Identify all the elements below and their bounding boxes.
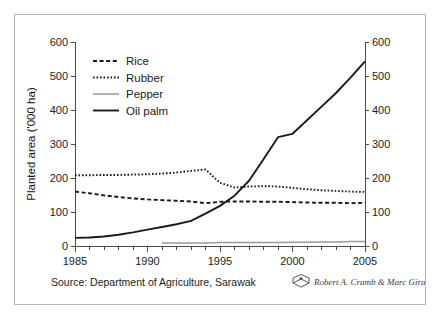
- series-line-rice: [75, 192, 365, 204]
- source-note: Source: Department of Agriculture, Saraw…: [51, 276, 257, 288]
- book-logo-icon: [293, 275, 309, 288]
- legend-label-pepper: Pepper: [126, 88, 163, 100]
- x-tick-label: 1990: [135, 255, 159, 267]
- x-tick-label: 2005: [353, 255, 377, 267]
- line-chart: 0100200300400500600010020030040050060019…: [15, 15, 425, 304]
- chart-figure-frame: 0100200300400500600010020030040050060019…: [14, 14, 426, 305]
- x-tick-label: 1985: [63, 255, 87, 267]
- left-y-tick-label: 300: [50, 138, 68, 150]
- y-axis-title: Planted area ('000 ha): [25, 87, 37, 201]
- left-y-tick-label: 200: [50, 172, 68, 184]
- series-line-oil-palm: [75, 61, 365, 237]
- left-y-tick-label: 500: [50, 70, 68, 82]
- right-y-tick-label: 500: [372, 70, 390, 82]
- right-y-tick-label: 600: [372, 36, 390, 48]
- right-y-tick-label: 300: [372, 138, 390, 150]
- right-y-tick-label: 100: [372, 206, 390, 218]
- legend-label-rubber: Rubber: [126, 72, 164, 84]
- credit-label: Robert A. Cramb & Marc Girard: [313, 277, 425, 287]
- left-y-tick-label: 100: [50, 206, 68, 218]
- left-y-tick-label: 400: [50, 104, 68, 116]
- series-line-rubber: [75, 170, 365, 192]
- legend-label-rice: Rice: [126, 55, 149, 67]
- x-tick-label: 1995: [208, 255, 232, 267]
- left-y-tick-label: 0: [62, 240, 68, 252]
- x-tick-label: 2000: [280, 255, 304, 267]
- left-y-tick-label: 600: [50, 36, 68, 48]
- right-y-tick-label: 400: [372, 104, 390, 116]
- series-line-pepper: [162, 242, 365, 243]
- legend-label-oil-palm: Oil palm: [126, 105, 168, 117]
- right-y-tick-label: 0: [372, 240, 378, 252]
- right-y-tick-label: 200: [372, 172, 390, 184]
